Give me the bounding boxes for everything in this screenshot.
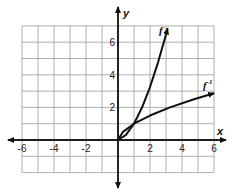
x-axis-label: x: [216, 125, 224, 137]
curve-f: [118, 28, 168, 140]
y-tick-label: 6: [109, 37, 115, 48]
x-tick-label: -6: [18, 143, 27, 154]
x-tick-label: 4: [179, 143, 185, 154]
x-tick-label: -4: [50, 143, 59, 154]
y-tick-label: 4: [109, 70, 115, 81]
x-tick-label: -2: [82, 143, 91, 154]
f-inverse-label-sup: -1: [207, 78, 213, 86]
f-inverse-label: f-1: [203, 78, 213, 91]
x-tick-label: 6: [211, 143, 217, 154]
y-axis-label: y: [122, 7, 130, 19]
x-tick-label: 2: [147, 143, 153, 154]
y-tick-label: 2: [109, 102, 115, 113]
function-inverse-graph: -6-4-2246246 x y f f-1: [0, 0, 233, 195]
axes: [8, 7, 226, 188]
